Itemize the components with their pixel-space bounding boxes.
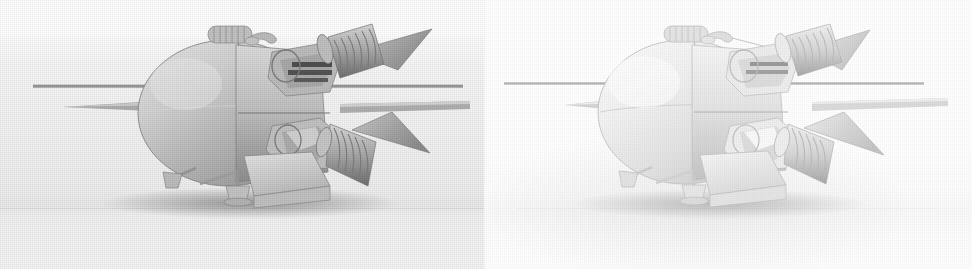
- upper-ribbed-tank: [208, 26, 276, 45]
- render-panel-right: [486, 0, 972, 269]
- landing-pad-left: [619, 171, 638, 187]
- figure-container: [0, 0, 972, 269]
- landing-pad-left: [163, 172, 182, 188]
- spacecraft-render-right: [486, 0, 972, 269]
- spacecraft-render-left: [0, 0, 486, 269]
- render-panel-left: [0, 0, 486, 269]
